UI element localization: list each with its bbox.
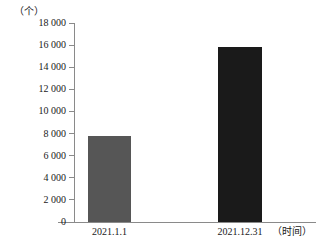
bar-chart: （个） 02 0004 0006 0008 00010 00012 00014 … xyxy=(0,0,320,246)
y-axis-tick-label: 2 000 xyxy=(44,195,67,205)
y-axis-tick xyxy=(69,67,74,68)
y-axis-tick xyxy=(69,133,74,134)
x-axis-category-label: 2021.1.1 xyxy=(65,226,155,238)
y-axis-tick xyxy=(69,155,74,156)
x-axis-line xyxy=(58,222,316,223)
y-axis-tick-label: 14 000 xyxy=(39,62,67,72)
y-axis-tick-label: 16 000 xyxy=(39,40,67,50)
y-axis-tick-label: 10 000 xyxy=(39,106,67,116)
y-axis-tick xyxy=(69,45,74,46)
y-axis-tick xyxy=(69,111,74,112)
y-axis-line xyxy=(74,23,75,223)
y-axis-tick-label: 4 000 xyxy=(44,173,67,183)
y-axis-tick xyxy=(69,23,74,24)
y-axis-tick-label: 12 000 xyxy=(39,84,67,94)
y-axis-tick-label: 8 000 xyxy=(44,129,67,139)
y-axis-tick xyxy=(69,199,74,200)
y-axis-tick xyxy=(69,89,74,90)
bar xyxy=(218,47,262,222)
y-axis-tick-label: 6 000 xyxy=(44,151,67,161)
y-axis-tick-label: 18 000 xyxy=(39,18,67,28)
bar xyxy=(88,136,131,222)
y-axis-tick xyxy=(69,177,74,178)
x-axis-title: （时间） xyxy=(272,226,312,238)
y-axis-tick xyxy=(69,222,74,223)
